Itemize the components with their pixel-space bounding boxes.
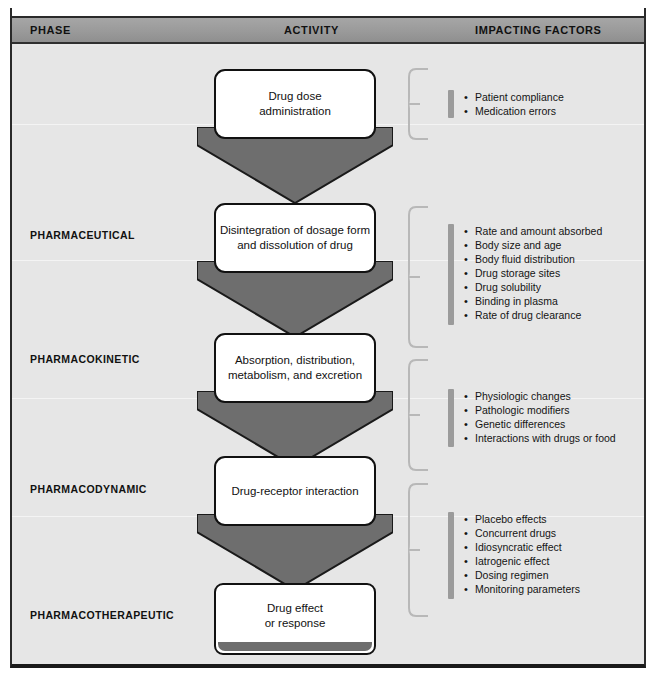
factor-item: Drug solubility xyxy=(464,280,602,294)
activity-text-1: Drug dose administration xyxy=(259,89,331,119)
diagram-canvas: PHARMACEUTICAL PHARMACOKINETIC PHARMACOD… xyxy=(12,46,644,664)
activity-box-5[interactable]: Drug effect or response xyxy=(214,583,376,655)
factor-accent-bar-4 xyxy=(448,512,454,599)
factor-item: Rate of drug clearance xyxy=(464,308,602,322)
factor-item: Monitoring parameters xyxy=(464,582,580,596)
column-header-factors: IMPACTING FACTORS xyxy=(475,24,602,36)
factor-item: Iatrogenic effect xyxy=(464,554,580,568)
factor-item: Binding in plasma xyxy=(464,294,602,308)
brace-1 xyxy=(408,68,434,140)
activity-box-3[interactable]: Absorption, distribution, metabolism, an… xyxy=(214,333,376,403)
factor-accent-bar-2 xyxy=(448,224,454,325)
factor-item: Pathologic modifiers xyxy=(464,403,616,417)
column-header-band: PHASE ACTIVITY IMPACTING FACTORS xyxy=(12,18,644,44)
factor-list-3: Physiologic changes Pathologic modifiers… xyxy=(464,389,616,445)
factor-item: Physiologic changes xyxy=(464,389,616,403)
factor-item: Body fluid distribution xyxy=(464,252,602,266)
phase-label-pharmacotherapeutic: PHARMACOTHERAPEUTIC xyxy=(30,609,174,621)
factor-item: Body size and age xyxy=(464,238,602,252)
activity-text-2: Disintegration of dosage form and dissol… xyxy=(220,223,370,253)
activity-text-4: Drug-receptor interaction xyxy=(231,484,358,499)
phase-label-pharmacodynamic: PHARMACODYNAMIC xyxy=(30,483,147,495)
factor-item: Interactions with drugs or food xyxy=(464,431,616,445)
factor-item: Medication errors xyxy=(464,104,564,118)
factor-item: Genetic differences xyxy=(464,417,616,431)
factor-item: Idiosyncratic effect xyxy=(464,540,580,554)
diagram-frame: PHASE ACTIVITY IMPACTING FACTORS PHARMAC… xyxy=(10,8,646,668)
factor-list-4: Placebo effects Concurrent drugs Idiosyn… xyxy=(464,512,580,596)
activity-text-5: Drug effect or response xyxy=(265,601,326,631)
terminal-bar xyxy=(218,642,372,651)
flowchart-page: PHASE ACTIVITY IMPACTING FACTORS PHARMAC… xyxy=(0,0,657,691)
activity-text-3: Absorption, distribution, metabolism, an… xyxy=(228,353,362,383)
phase-label-pharmaceutical: PHARMACEUTICAL xyxy=(30,229,135,241)
brace-2 xyxy=(408,206,434,348)
column-header-phase: PHASE xyxy=(30,24,71,36)
factor-item: Patient compliance xyxy=(464,90,564,104)
frame-top-strip xyxy=(12,8,644,18)
activity-box-2[interactable]: Disintegration of dosage form and dissol… xyxy=(214,203,376,273)
brace-4 xyxy=(408,483,434,617)
factor-item: Drug storage sites xyxy=(464,266,602,280)
factor-accent-bar-1 xyxy=(448,90,454,118)
phase-label-pharmacokinetic: PHARMACOKINETIC xyxy=(30,353,140,365)
activity-box-1[interactable]: Drug dose administration xyxy=(214,69,376,139)
factor-accent-bar-3 xyxy=(448,389,454,447)
factor-item: Placebo effects xyxy=(464,512,580,526)
factor-list-1: Patient compliance Medication errors xyxy=(464,90,564,118)
factor-list-2: Rate and amount absorbed Body size and a… xyxy=(464,224,602,322)
column-header-activity: ACTIVITY xyxy=(284,24,339,36)
activity-box-4[interactable]: Drug-receptor interaction xyxy=(214,456,376,526)
factor-item: Dosing regimen xyxy=(464,568,580,582)
brace-3 xyxy=(408,359,434,471)
factor-item: Concurrent drugs xyxy=(464,526,580,540)
factor-item: Rate and amount absorbed xyxy=(464,224,602,238)
